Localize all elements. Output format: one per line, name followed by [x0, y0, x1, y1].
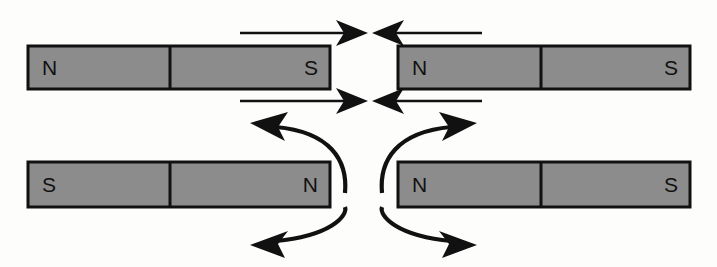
diagram-canvas: N S N S	[0, 0, 717, 267]
top-left-magnet-body	[28, 46, 330, 89]
bottom-lower-left-torque-arrowhead	[250, 231, 288, 258]
scenario-attraction: N S N S	[28, 20, 690, 114]
bottom-lower-left-torque-arrow	[250, 207, 345, 258]
scenario-repulsion: S N N S	[28, 112, 690, 258]
top-right-magnet: N S	[398, 46, 690, 89]
bottom-right-magnet-north-label: N	[412, 173, 427, 196]
top-lower-force-arrow-pair	[240, 88, 482, 114]
bottom-lower-right-torque-arrowhead	[439, 231, 477, 258]
bottom-lower-right-torque-arrow	[382, 207, 477, 258]
bottom-right-magnet-south-label: S	[664, 173, 678, 196]
bottom-left-magnet-body	[28, 162, 330, 207]
top-right-magnet-south-label: S	[664, 56, 678, 79]
bottom-left-magnet-south-label: S	[42, 173, 56, 196]
top-left-magnet-north-label: N	[42, 56, 57, 79]
bottom-lower-left-torque-curve	[276, 207, 345, 241]
top-right-magnet-body	[398, 46, 690, 89]
bottom-right-magnet-body	[398, 162, 690, 207]
top-left-magnet: N S	[28, 46, 330, 89]
top-left-magnet-south-label: S	[304, 56, 318, 79]
top-upper-force-arrow-pair	[240, 20, 482, 46]
magnet-interaction-diagram: N S N S	[0, 0, 717, 267]
top-right-magnet-north-label: N	[412, 56, 427, 79]
bottom-left-magnet: S N	[28, 162, 330, 207]
bottom-right-magnet: N S	[398, 162, 690, 207]
bottom-left-magnet-north-label: N	[303, 173, 318, 196]
bottom-lower-right-torque-curve	[382, 207, 451, 241]
